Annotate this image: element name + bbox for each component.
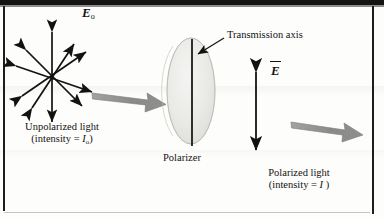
polarized-caption-line2: (intensity = I ) — [243, 179, 355, 191]
e-naught-symbol: E — [82, 5, 91, 20]
incident-beam-arrow — [92, 93, 166, 112]
vector-arrow-bar-e — [270, 61, 281, 62]
polarizer-disk — [162, 38, 215, 144]
unpolarized-caption-line1: Unpolarized light — [6, 121, 118, 133]
intensity-prefix: (intensity = — [31, 133, 82, 144]
starburst-ray-ne-shallow — [22, 52, 86, 96]
transmission-axis-label: Transmission axis — [227, 29, 303, 41]
out-intensity-prefix: (intensity = — [269, 179, 320, 190]
e-naught-subscript: o — [91, 12, 95, 21]
e-field-symbol: E — [271, 63, 280, 78]
unpolarized-caption-line2: (intensity = Io) — [6, 133, 118, 145]
polarized-caption-line1: Polarized light — [243, 167, 355, 179]
figure-canvas: Eo Transmission axis E Polarizer Unpolar… — [0, 0, 384, 217]
intensity-suffix: ) — [89, 133, 93, 144]
out-intensity-suffix: ) — [323, 179, 329, 190]
polarized-light-caption: Polarized light (intensity = I ) — [243, 167, 355, 191]
starburst-ray-se — [26, 50, 82, 106]
polarizer-label: Polarizer — [163, 152, 201, 164]
outgoing-beam-arrow — [291, 122, 363, 142]
unpolarized-light-caption: Unpolarized light (intensity = Io) — [6, 121, 118, 145]
e-naught-label: Eo — [82, 6, 95, 21]
unpolarized-starburst — [16, 32, 92, 122]
vector-arrow-bar — [81, 3, 92, 4]
e-field-label: E — [271, 64, 280, 79]
